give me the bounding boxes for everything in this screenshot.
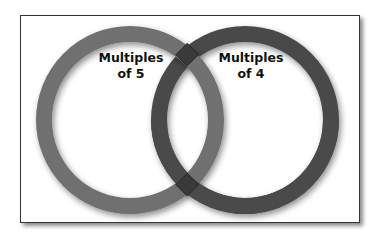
label-line: of 5	[86, 66, 176, 82]
label-line: of 4	[206, 66, 296, 82]
venn-diagram	[0, 0, 380, 237]
multiples-of-4-label: Multiples of 4	[206, 50, 296, 82]
multiples-of-5-label: Multiples of 5	[86, 50, 176, 82]
label-line: Multiples	[86, 50, 176, 66]
label-line: Multiples	[206, 50, 296, 66]
